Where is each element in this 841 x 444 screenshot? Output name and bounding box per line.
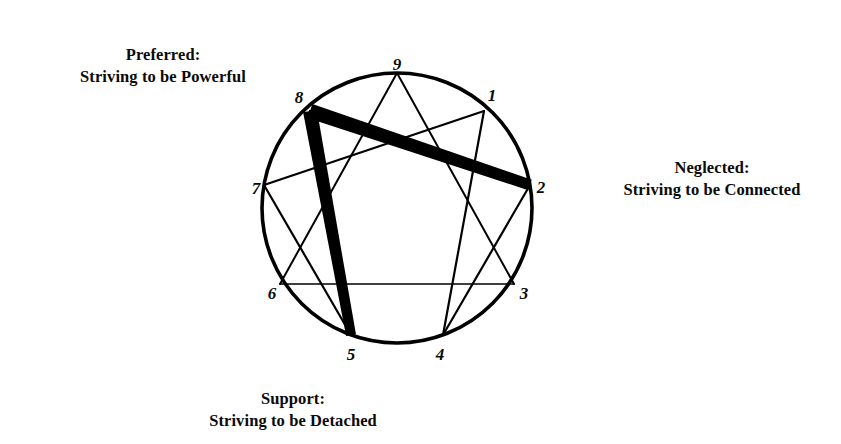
enneagram-emphasis-bars (303, 104, 532, 336)
node-label-4: 4 (435, 345, 445, 364)
node-label-7: 7 (252, 179, 262, 198)
node-label-9: 9 (393, 55, 402, 74)
caption-neglected-line2: Striving to be Connected (588, 179, 836, 201)
node-label-8: 8 (295, 88, 304, 107)
caption-neglected: Neglected: Striving to be Connected (588, 157, 836, 201)
node-label-1: 1 (488, 86, 497, 105)
node-label-2: 2 (536, 178, 546, 197)
caption-support-line2: Striving to be Detached (168, 410, 418, 432)
enneagram-circle (262, 73, 532, 343)
caption-preferred-line2: Striving to be Powerful (38, 66, 288, 88)
line-7-1 (264, 111, 484, 185)
caption-preferred-line1: Preferred: (38, 44, 288, 66)
enneagram-node-labels: 912345678 (252, 55, 546, 364)
caption-neglected-line1: Neglected: (588, 157, 836, 179)
caption-preferred: Preferred: Striving to be Powerful (38, 44, 288, 88)
caption-support-line1: Support: (168, 388, 418, 410)
diagram-canvas: 912345678 Preferred: Striving to be Powe… (0, 0, 841, 444)
caption-support: Support: Striving to be Detached (168, 388, 418, 432)
emphasis-bar-8-5 (303, 110, 356, 336)
node-label-5: 5 (347, 345, 356, 364)
node-label-3: 3 (519, 284, 529, 303)
enneagram-inner-triangle (280, 73, 514, 284)
node-label-6: 6 (268, 284, 277, 303)
